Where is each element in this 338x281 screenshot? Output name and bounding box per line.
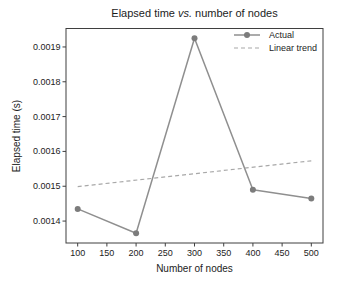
legend-item-linear-trend: Linear trend [233,42,317,54]
x-tick-label: 200 [129,248,144,258]
data-point-marker-actual [308,195,314,201]
legend-item-actual: Actual [233,29,317,41]
series-line-actual [78,38,312,233]
series-line-linear-trend [78,161,312,187]
y-axis-label: Elapsed time (s) [11,100,22,172]
legend-label-linear-trend: Linear trend [269,42,317,54]
x-tick-label: 150 [99,248,114,258]
y-tick-label: 0.0019 [33,42,61,52]
y-tick-label: 0.0018 [33,77,61,87]
x-tick-label: 350 [216,248,231,258]
data-point-marker-actual [75,206,81,212]
actual-line-sample-icon [233,30,261,40]
x-tick-label: 450 [275,248,290,258]
x-tick-label: 300 [187,248,202,258]
y-tick-label: 0.0016 [33,146,61,156]
data-point-marker-actual [133,230,139,236]
plot-frame [66,29,323,244]
x-tick-label: 250 [158,248,173,258]
data-point-marker-actual [250,187,256,193]
chart-figure: Elapsed time vs. number of nodes 1001502… [0,0,338,281]
y-tick-label: 0.0014 [33,216,61,226]
legend: Actual Linear trend [233,29,317,54]
dashed-line-sample-icon [233,43,261,53]
x-tick-label: 100 [70,248,85,258]
data-point-marker-actual [192,35,198,41]
y-tick-label: 0.0017 [33,112,61,122]
x-tick-label: 500 [304,248,319,258]
legend-label-actual: Actual [269,29,294,41]
y-tick-label: 0.0015 [33,181,61,191]
x-tick-label: 400 [245,248,260,258]
x-axis-label: Number of nodes [66,263,323,274]
